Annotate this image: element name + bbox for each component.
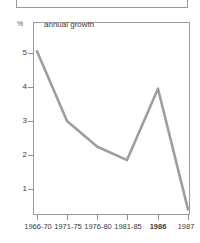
- series-line-annual-growth: [37, 51, 188, 209]
- chart-figure: % annual growth 5 4 3 2 1 1966-70 1971-7…: [0, 0, 200, 243]
- series-canvas: [0, 0, 200, 243]
